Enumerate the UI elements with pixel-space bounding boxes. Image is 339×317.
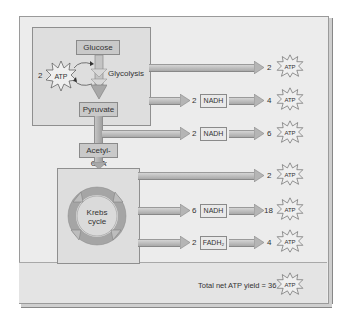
row3-atp-count: 6 — [267, 129, 271, 138]
row6-arrow-a — [138, 239, 181, 247]
glycolysis-label: Glycolysis — [108, 69, 144, 78]
row6-carrier-count: 2 — [192, 238, 196, 247]
krebs-label-line1: Krebs — [84, 208, 110, 217]
row2-arrow-a — [149, 97, 181, 105]
row3-arrow-a — [102, 130, 181, 138]
row6-atp-count: 4 — [267, 238, 271, 247]
row5-atp-burst-icon: ATP — [276, 197, 304, 221]
row2-arrowhead-a-icon — [180, 94, 190, 107]
svg-text:ATP: ATP — [284, 282, 295, 288]
row3-arrow-b — [229, 130, 255, 138]
row5-arrowhead-a-icon — [180, 204, 190, 217]
invested-atp-count: 2 — [38, 71, 42, 80]
total-atp-burst-icon: ATP — [276, 272, 304, 296]
row5-carrier-box: NADH — [200, 204, 227, 218]
row5-carrier-count: 6 — [192, 206, 196, 215]
row6-arrowhead-b-icon — [254, 236, 264, 249]
row5-arrow-a — [138, 207, 181, 215]
row3-carrier-box: NADH — [200, 127, 227, 141]
row1-atp-burst-icon: ATP — [276, 54, 304, 78]
row4-arrow — [138, 172, 255, 180]
row5-arrowhead-b-icon — [254, 204, 264, 217]
row4-atp-burst-icon: ATP — [276, 162, 304, 186]
row6-arrow-b — [229, 239, 255, 247]
svg-text:ATP: ATP — [284, 239, 295, 245]
row4-arrowhead-icon — [254, 169, 264, 182]
row2-arrowhead-b-icon — [254, 94, 264, 107]
row4-atp-count: 2 — [267, 171, 271, 180]
row5-arrow-b — [229, 207, 255, 215]
svg-text:ATP: ATP — [284, 130, 295, 136]
row3-arrowhead-a-icon — [180, 127, 190, 140]
svg-text:ATP: ATP — [284, 172, 295, 178]
atp-cycle-arrows-icon — [72, 58, 96, 90]
row6-arrowhead-a-icon — [180, 236, 190, 249]
row5-atp-count: 18 — [264, 206, 273, 215]
row2-carrier-count: 2 — [192, 96, 196, 105]
svg-text:ATP: ATP — [284, 64, 295, 70]
row6-carrier-box: FADH₂ — [200, 236, 227, 250]
row2-carrier-box: NADH — [200, 94, 227, 108]
atp-text: ATP — [54, 73, 67, 80]
row6-atp-burst-icon: ATP — [276, 229, 304, 253]
row1-arrowhead-icon — [254, 61, 264, 74]
row2-atp-burst-icon: ATP — [276, 87, 304, 111]
total-yield-label: Total net ATP yield = 36 — [198, 281, 276, 290]
svg-text:ATP: ATP — [284, 207, 295, 213]
svg-text:ATP: ATP — [284, 97, 295, 103]
row1-arrow — [149, 64, 255, 72]
row1-atp-count: 2 — [267, 63, 271, 72]
pyruvate-label: Pyruvate — [79, 102, 118, 117]
row3-carrier-count: 2 — [192, 129, 196, 138]
row3-arrowhead-b-icon — [254, 127, 264, 140]
acetyl-coa-label: Acetyl-CoA — [79, 143, 118, 158]
row3-atp-burst-icon: ATP — [276, 120, 304, 144]
glucose-label: Glucose — [76, 40, 120, 55]
row2-arrow-b — [229, 97, 255, 105]
krebs-label-line2: cycle — [84, 217, 110, 226]
row2-atp-count: 4 — [267, 96, 271, 105]
